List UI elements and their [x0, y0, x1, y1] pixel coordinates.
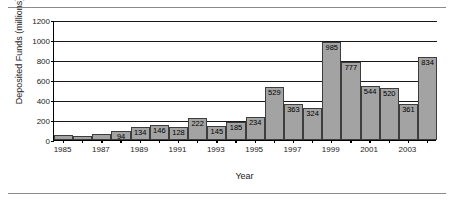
bar-slot: 985: [322, 20, 341, 140]
x-axis-tick-mark: [82, 140, 83, 143]
bar-slot: 529: [265, 20, 284, 140]
x-axis-tick-label: [187, 145, 206, 157]
top-divider-rule: [8, 7, 446, 8]
bar-slot: 134: [131, 20, 150, 140]
x-axis-tick-label: [302, 145, 321, 157]
x-axis-tick-mark: [197, 140, 198, 143]
bar-value-label: 145: [211, 128, 224, 136]
bar-value-label: 985: [326, 44, 339, 52]
x-axis-tick-label: 1993: [206, 145, 225, 157]
bar-slot: 222: [188, 20, 207, 140]
bar-slot: 363: [284, 20, 303, 140]
bar-value-label: 520: [383, 90, 396, 98]
x-axis-tick-mark: [369, 140, 370, 143]
x-axis-tick-label: 1995: [245, 145, 264, 157]
bar-value-label: 222: [191, 120, 204, 128]
y-axis-tick-label: 600: [37, 77, 50, 86]
bar: 222: [188, 118, 207, 140]
bar: 145: [207, 126, 226, 141]
bar-slot: [54, 20, 73, 140]
bar: 185: [226, 122, 245, 141]
x-axis-tick-mark: [216, 140, 217, 143]
bar-slot: 834: [418, 20, 437, 140]
x-axis-tick-label: 1987: [91, 145, 110, 157]
x-axis-tick-mark: [159, 140, 160, 143]
y-axis-tick-label: 200: [37, 117, 50, 126]
bar-slot: 777: [341, 20, 360, 140]
bar-value-label: 146: [153, 127, 166, 135]
x-axis-tick-mark: [140, 140, 141, 143]
x-axis-tick-label: 1989: [130, 145, 149, 157]
x-axis-tick-mark: [331, 140, 332, 143]
bar-value-label: 544: [364, 88, 377, 96]
bar: 94: [111, 131, 130, 140]
x-axis-tick-mark: [178, 140, 179, 143]
bar-slot: 128: [169, 20, 188, 140]
x-axis-tick-label: 1991: [168, 145, 187, 157]
bar-slot: 145: [207, 20, 226, 140]
x-axis-tick-label: 1985: [53, 145, 72, 157]
bar-value-label: 234: [249, 119, 262, 127]
bar-value-label: 134: [134, 129, 147, 137]
x-axis-tick-mark: [350, 140, 351, 143]
bar-value-label: 128: [172, 129, 185, 137]
x-axis-tick-mark: [120, 140, 121, 143]
x-axis-tick-label: [110, 145, 129, 157]
bar-slot: 324: [303, 20, 322, 140]
bar-slot: 234: [246, 20, 265, 140]
bar: 363: [284, 104, 303, 140]
bottom-divider-rule: [8, 193, 446, 194]
bar-slot: 361: [399, 20, 418, 140]
x-axis-tick-mark: [274, 140, 275, 143]
bar: 361: [399, 104, 418, 140]
x-axis-tick-mark: [255, 140, 256, 143]
x-axis-tick-label: [149, 145, 168, 157]
x-axis-tick-mark: [101, 140, 102, 143]
bar: 128: [169, 127, 188, 140]
bar-value-label: 324: [306, 110, 319, 118]
bar-value-label: 361: [402, 106, 415, 114]
x-axis-tick-label: [340, 145, 359, 157]
bar-value-label: 834: [421, 59, 434, 67]
y-axis-tick-mark: [51, 141, 54, 142]
bar-slot: 185: [226, 20, 245, 140]
x-axis-tick-mark: [293, 140, 294, 143]
x-axis-tick-label: 2003: [398, 145, 417, 157]
x-axis-tick-label: [72, 145, 91, 157]
bar: 520: [380, 88, 399, 140]
x-axis-tick-label: [264, 145, 283, 157]
y-axis-tick-label: 1000: [32, 37, 50, 46]
bar-slot: 520: [380, 20, 399, 140]
bar: 146: [150, 125, 169, 140]
x-axis-tick-mark: [312, 140, 313, 143]
x-axis-tick-mark: [427, 140, 428, 143]
bar: 985: [322, 42, 341, 141]
y-axis-title: Deposited Funds (millions): [14, 0, 24, 126]
x-axis-title: Year: [53, 171, 436, 181]
x-axis-tick-label: 1999: [321, 145, 340, 157]
bar-slot: [92, 20, 111, 140]
x-axis-tick-labels: 1985198719891991199319951997199920012003: [53, 145, 436, 157]
x-axis-tick-mark: [408, 140, 409, 143]
x-axis-tick-label: 2001: [360, 145, 379, 157]
bar: 777: [341, 62, 360, 140]
plot-area: 020040060080010001200 941341461282221451…: [53, 21, 436, 141]
bar-value-label: 529: [268, 89, 281, 97]
x-axis-tick-label: [225, 145, 244, 157]
bar: 234: [246, 117, 265, 140]
bar: 529: [265, 87, 284, 140]
bar-slot: 94: [111, 20, 130, 140]
bar: 834: [418, 57, 437, 140]
y-axis-tick-label: 400: [37, 97, 50, 106]
bar-chart-figure: Deposited Funds (millions) 0200400600800…: [0, 0, 454, 203]
x-axis-tick-mark: [389, 140, 390, 143]
bar-value-label: 777: [345, 64, 358, 72]
bar-slot: 544: [361, 20, 380, 140]
x-axis-tick-label: 1997: [283, 145, 302, 157]
x-axis-tick-mark: [63, 140, 64, 143]
bar-slot: 146: [150, 20, 169, 140]
y-axis-tick-label: 800: [37, 57, 50, 66]
bar-value-label: 363: [287, 106, 300, 114]
x-axis-tick-mark: [235, 140, 236, 143]
bar-slot: [73, 20, 92, 140]
